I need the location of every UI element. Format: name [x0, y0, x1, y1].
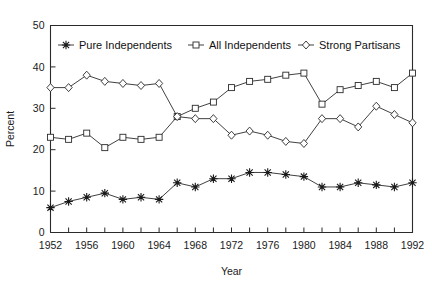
y-tick-label: 20 — [33, 143, 45, 155]
x-tick-label: 1956 — [75, 239, 99, 251]
data-point — [192, 115, 199, 123]
x-axis-title: Year — [221, 265, 243, 277]
x-tick-label: 1988 — [365, 239, 389, 251]
data-point — [120, 134, 126, 140]
data-point — [66, 136, 72, 142]
x-tick-label: 1984 — [328, 239, 352, 251]
data-point — [48, 134, 54, 140]
data-point — [119, 79, 126, 87]
data-point — [192, 105, 198, 111]
data-point-core — [212, 177, 215, 180]
legend-marker-square-icon — [193, 42, 199, 48]
data-point-core — [103, 192, 106, 195]
chart-figure: 01020304050Percent1952195619601964196819… — [0, 0, 432, 290]
data-point-core — [140, 196, 143, 199]
y-axis-title: Percent — [4, 111, 16, 147]
data-point-core — [375, 183, 378, 186]
data-point-core — [302, 175, 305, 178]
x-tick-label: 1968 — [184, 239, 208, 251]
data-point — [137, 82, 144, 90]
y-tick-label: 50 — [33, 19, 45, 31]
data-point — [409, 119, 416, 127]
data-point-core — [411, 181, 414, 184]
legend-item-pure-independents[interactable]: Pure Independents — [58, 39, 172, 51]
data-point-core — [357, 181, 360, 184]
legend: Pure IndependentsAll IndependentsStrong … — [58, 39, 401, 51]
data-point — [84, 130, 90, 136]
y-tick-label: 10 — [33, 185, 45, 197]
data-point — [337, 87, 343, 93]
data-point — [301, 70, 307, 76]
y-tick-label: 0 — [39, 226, 45, 238]
y-tick-label: 30 — [33, 102, 45, 114]
y-tick-label: 40 — [33, 61, 45, 73]
data-point — [355, 83, 361, 89]
data-point-core — [49, 206, 52, 209]
x-axis: 1952195619601964196819721976198019841988… — [39, 228, 425, 278]
legend-marker-star-icon-core — [65, 44, 68, 47]
legend-label: Pure Independents — [79, 39, 172, 51]
data-point — [337, 115, 344, 123]
data-point — [210, 99, 216, 105]
data-point — [373, 78, 379, 84]
data-point — [283, 72, 289, 78]
x-tick-label: 1972 — [220, 239, 244, 251]
data-point — [156, 134, 162, 140]
data-point-core — [194, 185, 197, 188]
data-point-core — [176, 181, 179, 184]
x-tick-label: 1960 — [111, 239, 135, 251]
data-point-core — [67, 200, 70, 203]
data-point-core — [230, 177, 233, 180]
data-point-core — [284, 173, 287, 176]
x-tick-label: 1980 — [292, 239, 316, 251]
data-point-core — [393, 185, 396, 188]
data-point — [264, 131, 271, 139]
data-point — [83, 71, 90, 79]
data-point — [156, 79, 163, 87]
x-tick-label: 1964 — [147, 239, 171, 251]
data-point — [47, 84, 54, 92]
data-point-core — [121, 198, 124, 201]
data-point — [319, 101, 325, 107]
legend-marker-diamond-icon — [302, 41, 309, 49]
data-point — [410, 70, 416, 76]
line-chart-svg: 01020304050Percent1952195619601964196819… — [0, 0, 432, 290]
data-point — [229, 85, 235, 91]
data-point — [246, 127, 253, 135]
data-point-core — [85, 196, 88, 199]
data-point — [138, 136, 144, 142]
x-tick-label: 1952 — [39, 239, 63, 251]
legend-label: All Independents — [209, 39, 291, 51]
data-point-core — [248, 171, 251, 174]
data-point — [65, 84, 72, 92]
data-point — [391, 111, 398, 119]
data-point-core — [158, 198, 161, 201]
legend-label: Strong Partisans — [319, 39, 401, 51]
data-point — [391, 85, 397, 91]
legend-item-strong-partisans[interactable]: Strong Partisans — [298, 39, 401, 51]
data-point-core — [321, 185, 324, 188]
legend-item-all-independents[interactable]: All Independents — [188, 39, 291, 51]
data-point — [282, 137, 289, 145]
series-pure-independents — [46, 168, 416, 212]
x-tick-label: 1976 — [256, 239, 280, 251]
data-point — [265, 76, 271, 82]
data-point — [247, 78, 253, 84]
data-point-core — [339, 185, 342, 188]
data-point — [101, 77, 108, 85]
data-point-core — [266, 171, 269, 174]
x-tick-label: 1992 — [401, 239, 425, 251]
data-point — [102, 145, 108, 151]
